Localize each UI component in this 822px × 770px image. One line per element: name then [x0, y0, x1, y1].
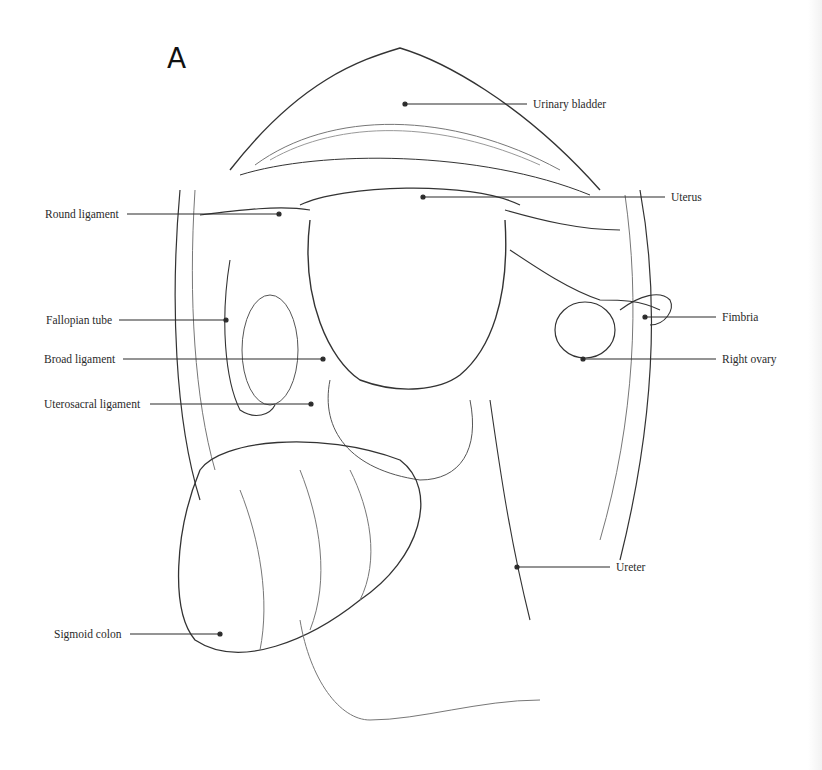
label-round-ligament: Round ligament	[45, 207, 119, 221]
label-uterosacral-ligament: Uterosacral ligament	[44, 397, 140, 411]
label-ureter: Ureter	[616, 560, 645, 574]
label-fimbria: Fimbria	[722, 310, 758, 324]
panel-letter: A	[167, 42, 186, 75]
label-sigmoid-colon: Sigmoid colon	[54, 627, 121, 641]
label-right-ovary: Right ovary	[722, 352, 777, 366]
label-uterus: Uterus	[671, 190, 702, 204]
pelvic-anatomy-illustration	[0, 0, 822, 770]
label-urinary-bladder: Urinary bladder	[533, 97, 606, 111]
label-fallopian-tube: Fallopian tube	[46, 313, 112, 327]
label-broad-ligament: Broad ligament	[44, 352, 115, 366]
